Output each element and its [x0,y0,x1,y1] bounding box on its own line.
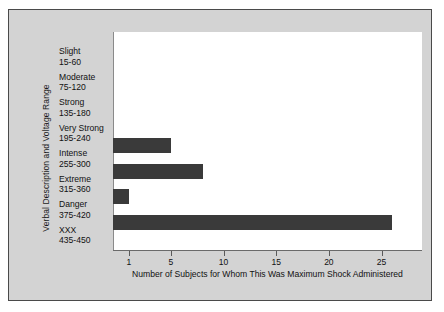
category-label-range: 435-450 [59,235,113,246]
x-tick-mark [329,251,330,256]
x-tick-mark [276,251,277,256]
x-tick-mark [382,251,383,256]
figure-canvas: Verbal Description and Voltage Range Sli… [0,0,444,312]
bar-row [113,109,422,135]
category-label-range: 315-360 [59,184,113,195]
x-axis-line [113,250,422,251]
x-tick-mark [171,251,172,256]
bar-row [113,211,422,237]
category-label: Moderate75-120 [59,72,113,98]
bar-row [113,160,422,186]
category-label-name: Extreme [59,174,113,185]
bar-row [113,58,422,84]
category-label-name: Moderate [59,72,113,83]
y-axis-title: Verbal Description and Voltage Range [41,43,51,273]
category-label: Extreme315-360 [59,174,113,200]
bar-row [113,134,422,160]
bar[interactable] [113,164,203,179]
category-label: Slight15-60 [59,46,113,72]
category-label-range: 135-180 [59,108,113,119]
category-label-range: 75-120 [59,82,113,93]
category-label-name: Intense [59,148,113,159]
bar[interactable] [113,215,392,230]
category-label-range: 195-240 [59,133,113,144]
category-label: Intense255-300 [59,148,113,174]
category-label-range: 375-420 [59,210,113,221]
x-tick-label: 1 [126,257,131,267]
x-tick-label: 15 [271,257,280,267]
x-tick-label: 5 [169,257,174,267]
category-label-range: 15-60 [59,57,113,68]
x-tick-label: 20 [324,257,333,267]
category-label: XXX435-450 [59,225,113,251]
bar-row [113,32,422,58]
bar[interactable] [113,189,129,204]
bar-series [113,32,422,250]
bar[interactable] [113,138,171,153]
category-label-name: Very Strong [59,123,113,134]
x-tick-label: 10 [219,257,228,267]
category-label-range: 255-300 [59,159,113,170]
bar-row [113,83,422,109]
category-label: Very Strong195-240 [59,123,113,149]
x-axis-title: Number of Subjects for Whom This Was Max… [113,269,422,279]
x-tick-label: 25 [377,257,386,267]
category-label-name: Slight [59,46,113,57]
category-axis-labels: Slight15-60Moderate75-120Strong135-180Ve… [59,46,113,250]
x-tick-mark [129,251,130,256]
category-label: Danger375-420 [59,199,113,225]
bar-row [113,185,422,211]
x-tick-mark [224,251,225,256]
category-label-name: Strong [59,97,113,108]
category-label-name: Danger [59,199,113,210]
category-label-name: XXX [59,225,113,236]
chart-frame: Verbal Description and Voltage Range Sli… [8,9,432,301]
category-label: Strong135-180 [59,97,113,123]
